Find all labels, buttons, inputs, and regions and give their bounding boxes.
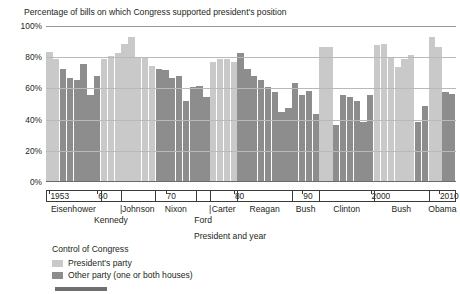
bar	[449, 94, 455, 181]
bar	[210, 62, 216, 181]
bar	[408, 55, 414, 181]
president-label: Nixon	[165, 204, 187, 214]
term-separator	[155, 190, 156, 201]
president-label: Clinton	[333, 204, 360, 214]
bar	[87, 95, 93, 181]
bar	[442, 92, 448, 181]
legend-label-presidents-party: President's party	[68, 258, 132, 268]
bar	[231, 62, 237, 181]
bar	[128, 37, 134, 181]
year-tick-label: 70	[167, 191, 176, 201]
president-label: Reagan	[250, 204, 280, 214]
bar	[176, 76, 182, 181]
plot-canvas	[46, 26, 456, 182]
chart-title: Percentage of bills on which Congress su…	[24, 7, 286, 17]
president-label-divider: |	[120, 204, 122, 214]
bar	[80, 64, 86, 181]
year-tick-label: 1953	[50, 191, 69, 201]
bar	[121, 44, 127, 181]
y-axis-tick-label: 20%	[25, 146, 42, 156]
president-label: Bush	[392, 204, 412, 214]
y-axis-tick-label: 80%	[25, 52, 42, 62]
legend-item-presidents-party: President's party	[52, 258, 193, 268]
bar	[265, 87, 271, 181]
bar	[319, 47, 325, 181]
bar-series	[46, 26, 456, 181]
bar	[313, 114, 319, 181]
term-separator	[46, 190, 47, 201]
term-separator	[101, 190, 102, 201]
year-scale-bottom-line	[46, 201, 456, 202]
term-separator	[319, 190, 320, 201]
gridline	[46, 88, 456, 89]
term-separator	[455, 190, 456, 201]
bar	[108, 56, 114, 181]
y-axis: 0%20%40%60%80%100%	[0, 26, 46, 182]
bar	[196, 86, 202, 181]
bar	[244, 69, 250, 181]
bar	[203, 97, 209, 181]
bar	[299, 95, 305, 181]
president-label: Bush	[296, 204, 316, 214]
term-separator	[210, 190, 211, 201]
legend-swatch-presidents-party	[52, 260, 63, 267]
gridline	[46, 151, 456, 152]
y-axis-tick-label: 40%	[25, 115, 42, 125]
legend-label-other-party: Other party (one or both houses)	[68, 270, 193, 280]
bar	[169, 78, 175, 181]
y-axis-tick-label: 60%	[25, 83, 42, 93]
bottom-scroll-indicator[interactable]	[55, 287, 107, 291]
bar	[422, 106, 428, 181]
president-label: Carter	[212, 204, 236, 214]
bar	[374, 45, 380, 181]
bar	[429, 37, 435, 181]
term-separator	[237, 190, 238, 201]
plot-area: 0%20%40%60%80%100%	[0, 26, 460, 190]
legend: Control of Congress President's party Ot…	[52, 244, 193, 280]
bar	[149, 66, 155, 181]
bar	[190, 87, 196, 181]
term-separator	[429, 190, 430, 201]
bar	[251, 76, 257, 181]
bar	[326, 47, 332, 181]
bar	[94, 76, 100, 181]
president-labels: EisenhowerKennedyJohnsonNixonFordCarterR…	[46, 204, 456, 228]
x-axis-label: President and year	[0, 231, 460, 241]
bar	[258, 80, 264, 181]
president-label: Ford	[194, 215, 212, 225]
bar	[74, 80, 80, 181]
legend-swatch-other-party	[52, 272, 63, 279]
term-separator	[196, 190, 197, 201]
term-separator	[374, 190, 375, 201]
president-label-divider: |	[209, 204, 211, 214]
president-label: Obama	[428, 204, 456, 214]
bar	[60, 69, 66, 181]
bar	[340, 95, 346, 181]
y-axis-tick-label: 0%	[30, 177, 42, 187]
y-axis-tick-label: 100%	[21, 21, 42, 31]
bar	[46, 52, 52, 181]
bar	[381, 44, 387, 181]
legend-item-other-party: Other party (one or both houses)	[52, 270, 193, 280]
bar	[367, 95, 373, 181]
bar	[306, 91, 312, 181]
bar	[115, 53, 121, 181]
bar	[435, 47, 441, 181]
bar	[278, 112, 284, 181]
bar	[272, 92, 278, 181]
bar	[354, 101, 360, 181]
president-label: Johnson	[122, 204, 155, 214]
bar	[292, 83, 298, 181]
year-scale: 19536070809020002010	[46, 190, 456, 203]
bar	[237, 53, 243, 181]
bar	[162, 70, 168, 181]
term-separator	[121, 190, 122, 201]
bar	[183, 101, 189, 181]
bar	[347, 97, 353, 181]
gridline	[46, 26, 456, 27]
gridline	[46, 120, 456, 121]
gridline	[46, 57, 456, 58]
x-axis-baseline	[46, 181, 456, 182]
year-tick-label: 60	[98, 191, 107, 201]
legend-title: Control of Congress	[52, 244, 193, 254]
